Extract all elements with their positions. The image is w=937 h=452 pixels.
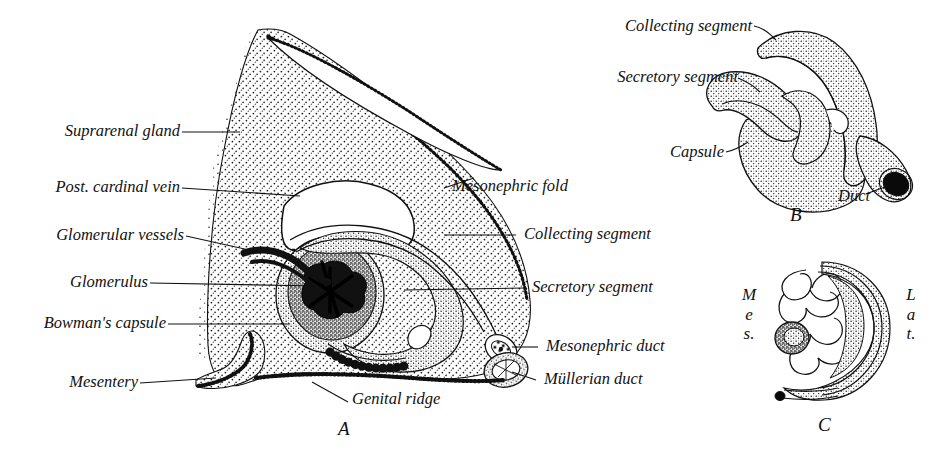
panel-letter-b: B bbox=[790, 204, 802, 226]
label-bowmans-capsule: Bowman's capsule bbox=[0, 315, 166, 332]
label-mesentery: Mesentery bbox=[0, 374, 138, 391]
label-glomerulus: Glomerulus bbox=[0, 274, 148, 291]
leader-genital-ridge bbox=[312, 382, 348, 402]
panel-letter-c: C bbox=[818, 414, 831, 436]
orientation-medial-line-1: M bbox=[736, 285, 762, 305]
label-collecting-segment-b: Collecting segment bbox=[558, 18, 752, 35]
panel-c-artwork bbox=[775, 262, 890, 401]
label-capsule-b: Capsule bbox=[596, 144, 724, 161]
panel-b-artwork bbox=[707, 26, 918, 212]
label-mullerian-duct: Müllerian duct bbox=[544, 371, 643, 388]
figure-canvas: Suprarenal gland Post. cardinal vein Glo… bbox=[0, 0, 937, 452]
orientation-medial: M e s. bbox=[736, 285, 762, 344]
orientation-medial-line-2: e bbox=[736, 305, 762, 325]
orientation-lateral-line-3: t. bbox=[898, 324, 924, 344]
panel-c-glomerulus bbox=[775, 322, 809, 354]
label-mesonephric-fold: Mesonephric fold bbox=[452, 178, 568, 195]
label-post-cardinal-vein: Post. cardinal vein bbox=[0, 179, 180, 196]
panel-letter-a: A bbox=[338, 418, 350, 440]
orientation-lateral-line-2: a bbox=[898, 305, 924, 325]
panel-a-artwork bbox=[140, 25, 538, 402]
panel-c-duct-lumen bbox=[775, 392, 785, 401]
orientation-lateral-line-1: L bbox=[898, 285, 924, 305]
label-collecting-segment-a: Collecting segment bbox=[524, 226, 651, 243]
label-glomerular-vessels: Glomerular vessels bbox=[0, 227, 184, 244]
orientation-lateral: L a t. bbox=[898, 285, 924, 344]
label-genital-ridge: Genital ridge bbox=[352, 391, 440, 408]
orientation-medial-line-3: s. bbox=[736, 324, 762, 344]
label-secretory-segment-a: Secretory segment bbox=[532, 279, 653, 296]
label-duct-b: Duct bbox=[838, 188, 870, 205]
label-mesonephric-duct: Mesonephric duct bbox=[546, 338, 665, 355]
label-suprarenal-gland: Suprarenal gland bbox=[0, 123, 180, 140]
label-secretory-segment-b: Secretory segment bbox=[558, 69, 738, 86]
